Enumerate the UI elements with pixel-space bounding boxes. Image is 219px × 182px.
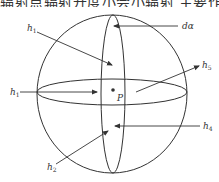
point-p-label: P xyxy=(116,93,124,103)
h1-left-label: h1 xyxy=(10,87,20,98)
h4-label: h4 xyxy=(203,121,213,132)
h5-label: h5 xyxy=(202,60,212,71)
sphere-outline xyxy=(37,15,187,173)
da-label: dα xyxy=(182,21,194,31)
h2-arrow xyxy=(56,131,108,164)
h2-label: h2 xyxy=(47,162,57,173)
h1-top-label: h1 xyxy=(27,23,37,34)
sphere-diagram: P dα h1 h1 h5 h4 h2 xyxy=(0,0,219,182)
h1-top-arrow xyxy=(37,32,112,65)
h5-arrow xyxy=(136,66,199,92)
point-p xyxy=(111,88,115,92)
